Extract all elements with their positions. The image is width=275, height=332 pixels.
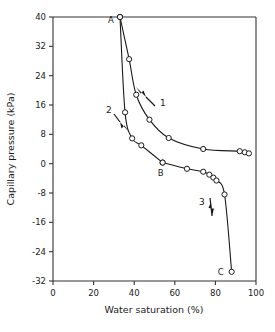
data-point-marker — [222, 192, 227, 197]
y-tick-label: 32 — [35, 41, 46, 51]
data-point-marker — [237, 149, 242, 154]
y-tick-label: 40 — [35, 12, 46, 22]
y-tick-label: 8 — [41, 129, 46, 139]
data-point-marker — [160, 160, 165, 165]
data-point-marker — [166, 135, 171, 140]
data-point-marker — [229, 269, 234, 274]
x-tick-label: 100 — [248, 288, 264, 298]
data-point-marker — [201, 146, 206, 151]
y-tick-label: 24 — [35, 71, 46, 81]
data-point-marker — [147, 117, 152, 122]
point-label-c: C — [218, 267, 224, 277]
annotation-label-1: 1 — [160, 98, 166, 108]
y-tick-label: -24 — [32, 247, 46, 257]
data-point-marker — [134, 92, 139, 97]
x-tick-label: 20 — [88, 288, 99, 298]
capillary-pressure-chart: 4032241680-8-16-24-32 020406080100 ABC 1… — [0, 0, 275, 332]
x-axis-title: Water saturation (%) — [104, 304, 203, 315]
chart-canvas: 4032241680-8-16-24-32 020406080100 ABC 1… — [0, 0, 275, 332]
point-label-b: B — [158, 168, 164, 178]
y-tick-label: 16 — [35, 100, 46, 110]
x-tick-label: 0 — [50, 288, 55, 298]
x-tick-label: 80 — [210, 288, 221, 298]
data-point-marker — [184, 166, 189, 171]
data-point-marker — [201, 169, 206, 174]
annotation-label-2: 2 — [106, 105, 112, 115]
point-label-a: A — [108, 15, 114, 25]
y-axis-title: Capillary pressure (kPa) — [5, 93, 16, 206]
data-point-marker — [139, 143, 144, 148]
data-point-marker — [117, 14, 122, 19]
data-point-marker — [214, 178, 219, 183]
x-tick-label: 60 — [169, 288, 180, 298]
y-tick-label: -16 — [32, 217, 46, 227]
y-tick-label: -8 — [38, 188, 46, 198]
x-tick-label: 40 — [129, 288, 140, 298]
data-point-marker — [246, 151, 251, 156]
annotation-label-3: 3 — [199, 197, 205, 207]
data-point-marker — [127, 57, 132, 62]
data-point-marker — [122, 110, 127, 115]
y-tick-label: -32 — [32, 276, 46, 286]
data-point-marker — [130, 136, 135, 141]
y-tick-label: 0 — [41, 159, 46, 169]
